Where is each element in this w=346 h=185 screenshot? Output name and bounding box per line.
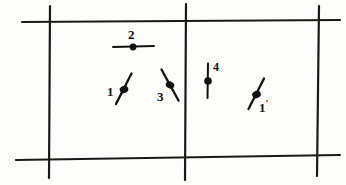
marker-2-dot (130, 44, 137, 51)
marker-2-glyph (113, 44, 154, 51)
marker-2-label: 2 (128, 28, 135, 41)
right-vertical-line (317, 6, 319, 176)
bottom-horizontal-line (16, 155, 340, 160)
marker-3-glyph (162, 70, 179, 101)
marker-1-prime-label: 1' (259, 99, 268, 114)
marker-4-dot (204, 77, 212, 85)
marker-1-label: 1 (107, 85, 114, 98)
figure-vector-layer (0, 0, 346, 185)
marker-3-label: 3 (157, 90, 164, 103)
marker-4-glyph (204, 64, 212, 99)
marker-1-dot (118, 84, 129, 94)
figure-canvas: 2 1 3 4 1' (0, 0, 346, 185)
marker-1-prime-suffix: ' (266, 98, 269, 109)
marker-4-label: 4 (213, 61, 219, 73)
marker-3-dot (164, 80, 175, 90)
left-vertical-line (49, 6, 50, 178)
top-horizontal-line (22, 20, 340, 22)
marker-1-glyph (116, 74, 132, 105)
middle-vertical-line (185, 4, 186, 180)
